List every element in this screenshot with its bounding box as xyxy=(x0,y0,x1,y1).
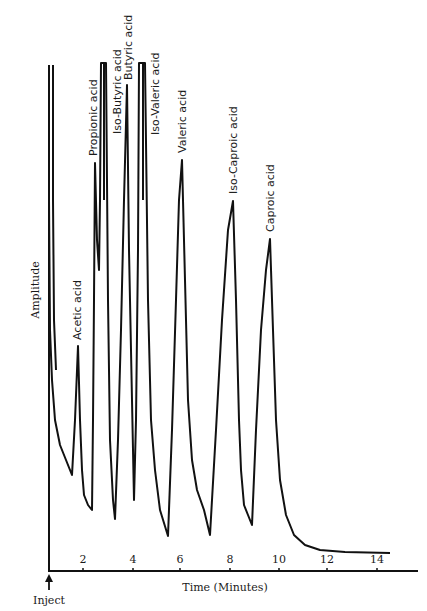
y-axis-title: Amplitude xyxy=(29,261,42,320)
peak-label-caproic: Caproic acid xyxy=(264,164,277,232)
x-tick-label: 2 xyxy=(80,553,87,566)
peak-label-iso-valeric: Iso-Valeric acid xyxy=(149,53,162,135)
peak-label-valeric: Valeric acid xyxy=(176,90,189,153)
peak-label-iso-caproic: Iso-Caproic acid xyxy=(227,106,240,194)
x-tick-label: 6 xyxy=(177,553,184,566)
x-tick-label: 10 xyxy=(272,553,286,566)
x-axis-title: Time (Minutes) xyxy=(182,581,267,594)
inject-label: Inject xyxy=(33,594,66,607)
solvent-peak-trace xyxy=(53,65,56,370)
chromatogram-trace xyxy=(49,63,390,553)
x-tick-label: 14 xyxy=(370,553,384,566)
peak-label-butyric: Butyric acid xyxy=(122,15,135,80)
x-tick-label: 12 xyxy=(320,553,334,566)
peak-label-propionic: Propionic acid xyxy=(87,79,100,156)
inject-arrow-icon xyxy=(45,574,53,590)
x-tick-label: 8 xyxy=(227,553,234,566)
chromatogram-chart: 2 4 6 8 10 12 14 Time (Minutes) Amplitud… xyxy=(0,0,427,611)
x-tick-label: 4 xyxy=(130,553,137,566)
peak-label-acetic: Acetic acid xyxy=(71,280,84,340)
